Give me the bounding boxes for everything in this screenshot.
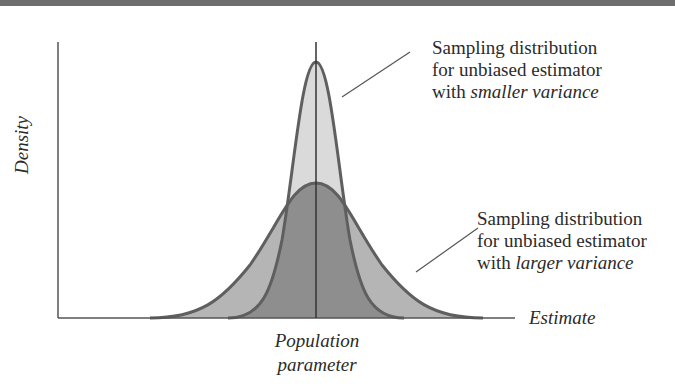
population-parameter-label: Population parameter xyxy=(274,329,360,377)
annotation-emphasis: larger variance xyxy=(516,252,634,273)
annotation-line: with smaller variance xyxy=(432,81,602,103)
annotation-line: Sampling distribution xyxy=(432,37,602,59)
y-axis-label: Density xyxy=(11,116,33,174)
annotation-line: Sampling distribution xyxy=(477,208,647,230)
annotation-emphasis: smaller variance xyxy=(471,81,599,102)
annotation-line: for unbiased estimator xyxy=(477,230,647,252)
annotation-line: with larger variance xyxy=(477,252,647,274)
x-axis-label: Estimate xyxy=(529,307,596,329)
population-label-line1: Population xyxy=(274,329,360,353)
population-label-line2: parameter xyxy=(274,353,360,377)
annotation-prefix: with xyxy=(477,252,516,273)
leader-line-large-variance xyxy=(416,228,478,272)
annotation-smaller-variance: Sampling distribution for unbiased estim… xyxy=(432,37,602,103)
annotation-prefix: with xyxy=(432,81,471,102)
annotation-line: for unbiased estimator xyxy=(432,59,602,81)
leader-line-small-variance xyxy=(342,52,410,97)
annotation-larger-variance: Sampling distribution for unbiased estim… xyxy=(477,208,647,274)
